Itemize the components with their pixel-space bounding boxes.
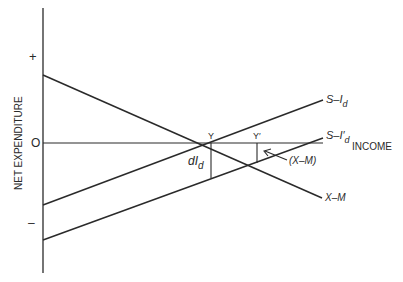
- x-m-line: [43, 75, 322, 198]
- minus-sign: –: [28, 216, 35, 230]
- point-y-label: Y: [208, 131, 214, 141]
- s-id-prime-label: S–I′d: [326, 129, 351, 145]
- y-axis-title: NET EXPENDITURE: [13, 96, 24, 190]
- x-m-gap-label: (X–M): [289, 155, 316, 166]
- economic-diagram: NET EXPENDITURE + O – INCOME S–Id S–I′d …: [0, 0, 403, 282]
- plus-sign: +: [29, 49, 37, 64]
- point-y-prime-label: Y′: [253, 131, 261, 141]
- zero-label: O: [31, 136, 40, 150]
- d-id-label: dId: [188, 154, 204, 171]
- x-m-label: X–M: [324, 192, 346, 203]
- s-id-label: S–Id: [326, 93, 349, 109]
- income-label: INCOME: [352, 141, 392, 152]
